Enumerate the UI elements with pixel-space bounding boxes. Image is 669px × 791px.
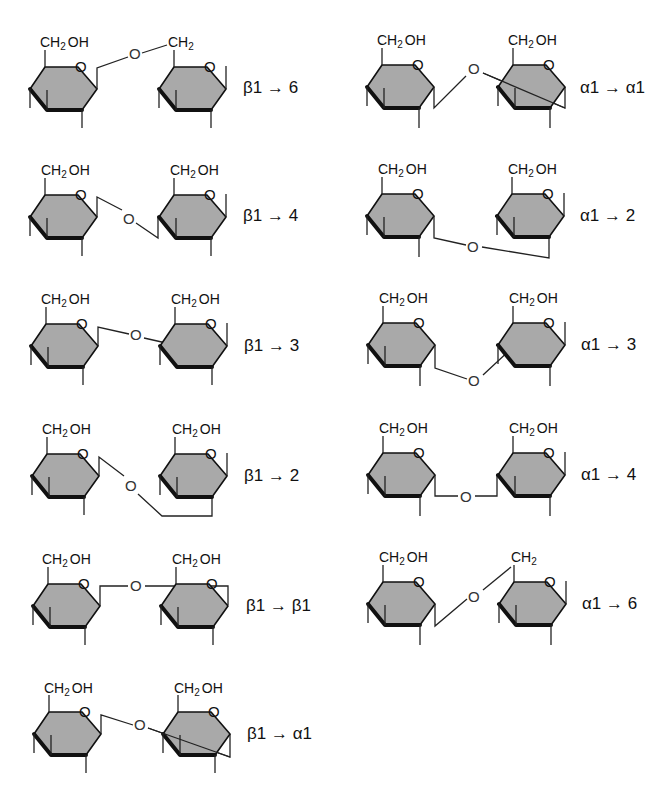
svg-text:CH2OH: CH2OH [170,162,219,180]
svg-text:O: O [79,703,91,720]
svg-text:O: O [75,58,87,75]
svg-text:CH2OH: CH2OH [171,291,220,309]
linkage-label: β1 → α1 [247,724,312,744]
svg-text:O: O [543,444,555,461]
sugar-ring-right: CH2OH O [161,551,228,645]
disaccharide-structure: CH2OH O O CH2OH O [340,0,669,130]
sugar-ring-right: CH2OH O [483,32,565,128]
svg-text:CH2OH: CH2OH [174,680,223,698]
svg-text:CH2OH: CH2OH [41,162,90,180]
svg-text:CH2OH: CH2OH [508,161,557,179]
svg-text:O: O [125,477,137,494]
panel-alpha1-2: CH2OH O O CH2OH O α1 → 2 [340,130,669,260]
linkage-label: β1 → 3 [244,336,299,356]
svg-text:O: O [75,186,87,203]
svg-text:CH2: CH2 [168,34,194,52]
sugar-ring-left: CH2OH O [30,162,97,256]
sugar-ring-left: CH2OH O [34,680,101,773]
svg-text:CH2OH: CH2OH [508,32,557,50]
svg-text:CH2: CH2 [511,549,537,567]
svg-text:CH2OH: CH2OH [172,421,221,439]
svg-text:O: O [205,315,217,332]
panel-alpha1-alpha1: CH2OH O O CH2OH O α1 → α1 [340,0,669,130]
svg-text:O: O [467,238,479,255]
sugar-ring-left: CH2OH O [30,34,97,128]
svg-text:CH2OH: CH2OH [379,420,428,438]
svg-text:O: O [129,45,141,62]
svg-text:CH2OH: CH2OH [40,34,89,52]
sugar-ring-left: CH2OH O [367,32,434,128]
disaccharide-structure: CH2OH O O CH2OH O [340,130,669,260]
disaccharide-structure: CH2OH O O CH2OH O [0,650,330,780]
svg-text:O: O [204,58,216,75]
svg-text:O: O [468,60,480,77]
svg-text:O: O [130,326,142,343]
svg-text:CH2OH: CH2OH [41,291,90,309]
svg-text:CH2OH: CH2OH [377,32,426,50]
sugar-ring-left: CH2OH O [33,551,100,645]
svg-text:O: O [205,445,217,462]
glycosidic-linkage-diagram: CH2OH O O CH2 O β1 → 6 [0,0,669,791]
disaccharide-structure: CH2OH O O CH2OH O [0,520,330,650]
svg-text:O: O [460,488,472,505]
disaccharide-structure: CH2OH O O CH2 O [340,520,669,650]
panel-beta1-alpha1: CH2OH O O CH2OH O β1 → α1 [0,650,330,780]
svg-text:O: O [544,573,556,590]
disaccharide-structure: CH2OH O O CH2OH O [0,130,330,260]
sugar-ring-right: CH2OH O [498,290,565,386]
panel-beta1-3: CH2OH O O CH2OH O β1 → 3 [0,260,330,390]
svg-text:CH2OH: CH2OH [44,680,93,698]
svg-text:O: O [543,56,555,73]
panel-alpha1-6: CH2OH O O CH2 O α1 → 6 [340,520,669,650]
sugar-ring-right: CH2OH O [498,420,565,516]
sugar-ring-left: CH2OH O [368,549,435,645]
svg-text:O: O [468,588,480,605]
svg-text:O: O [413,573,425,590]
sugar-ring-left: CH2OH O [368,290,435,386]
svg-text:CH2OH: CH2OH [509,290,558,308]
svg-text:O: O [413,314,425,331]
sugar-ring-right: CH2OH O [160,291,227,385]
sugar-ring-right: CH2OH O [148,680,230,773]
sugar-ring-right: CH2OH O [497,161,564,237]
svg-text:O: O [123,210,135,227]
svg-text:O: O [208,703,220,720]
svg-text:O: O [206,575,218,592]
disaccharide-structure: CH2OH O O CH2 O [0,0,330,130]
glycosidic-bond: O [97,45,167,89]
linkage-label: β1 → 6 [243,78,298,98]
linkage-label: α1 → 3 [581,335,636,355]
svg-text:CH2OH: CH2OH [42,551,91,569]
linkage-label: α1 → 4 [581,465,636,485]
sugar-ring-right: CH2OH O [160,421,227,497]
linkage-label: β1 → 2 [244,466,299,486]
svg-text:O: O [76,315,88,332]
svg-text:CH2OH: CH2OH [172,551,221,569]
sugar-ring-left: CH2OH O [31,291,98,385]
disaccharide-structure: CH2OH O O CH2OH O [340,260,669,390]
svg-text:O: O [78,575,90,592]
panel-beta1-beta1: CH2OH O O CH2OH O β1 → β1 [0,520,330,650]
svg-text:O: O [468,372,480,389]
linkage-label: α1 → 6 [582,594,637,614]
panel-alpha1-3: CH2OH O O CH2OH O α1 → 3 [340,260,669,390]
svg-text:O: O [77,445,89,462]
svg-text:CH2OH: CH2OH [379,549,428,567]
disaccharide-structure: CH2OH O O CH2OH O [0,260,330,390]
sugar-ring-right: CH2OH O [159,162,226,256]
sugar-ring-left: CH2OH O [368,420,435,516]
svg-text:CH2OH: CH2OH [378,161,427,179]
svg-text:O: O [542,185,554,202]
linkage-label: α1 → 2 [580,206,635,226]
sugar-ring-right: CH2 O [499,549,566,645]
svg-text:O: O [543,314,555,331]
sugar-ring-left: CH2OH O [367,161,434,257]
svg-text:CH2OH: CH2OH [379,290,428,308]
glycosidic-bond: O [435,475,497,505]
panel-beta1-6: CH2OH O O CH2 O β1 → 6 [0,0,330,130]
disaccharide-structure: CH2OH O O CH2OH O [0,390,330,520]
svg-text:CH2OH: CH2OH [42,421,91,439]
panel-alpha1-4: CH2OH O O CH2OH O α1 → 4 [340,390,669,520]
sugar-ring-right: CH2 O [159,34,226,128]
svg-text:O: O [134,716,146,733]
